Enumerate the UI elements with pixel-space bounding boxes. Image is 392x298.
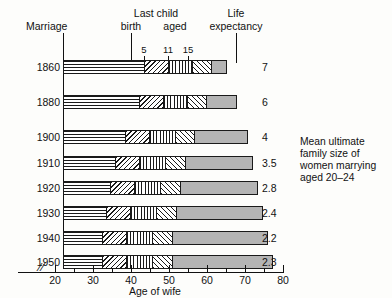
x-tick-label-30: 30 (83, 275, 103, 287)
year-label-1900: 1900 (22, 132, 60, 144)
x-axis-label: Age of wife (110, 286, 200, 298)
caption-line-2: family size of (300, 148, 360, 160)
x-tick-60 (207, 265, 208, 272)
header-last-child-birth: birth (111, 20, 151, 32)
caption-line-1: Mean ultimate (300, 136, 365, 148)
family-size-1920: 2.8 (262, 183, 292, 195)
segment-child-0-5 (107, 207, 131, 219)
segment-marriage-to-last-birth (64, 61, 145, 73)
segment-life-expectancy (173, 232, 267, 244)
leader-line-last-child-birth (131, 33, 132, 63)
segment-child-11-15 (176, 131, 195, 143)
leader-line-life-expectancy (236, 33, 237, 63)
segment-life-expectancy (212, 61, 226, 73)
segment-marriage-to-last-birth (64, 131, 126, 143)
x-tick-label-80: 80 (273, 275, 293, 287)
year-label-1860: 1860 (22, 62, 60, 74)
age-tick-5-label: 5 (137, 44, 151, 56)
header-last-child-aged: aged (155, 20, 195, 32)
year-label-1940: 1940 (22, 233, 60, 245)
segment-life-expectancy (186, 157, 252, 169)
family-size-1910: 3.5 (262, 158, 292, 170)
x-tick-65 (226, 268, 227, 272)
segment-marriage-to-last-birth (64, 182, 111, 194)
bar-1880 (63, 95, 237, 109)
year-label-1880: 1880 (22, 97, 60, 109)
bar-1900 (63, 130, 248, 144)
caption-line-4: aged 20–24 (300, 172, 354, 184)
segment-child-0-5 (103, 256, 127, 268)
year-label-1930: 1930 (22, 208, 60, 220)
family-size-1930: 2.4 (262, 208, 292, 220)
segment-marriage-to-last-birth (64, 157, 116, 169)
bar-1930 (63, 206, 263, 220)
year-label-1910: 1910 (22, 158, 60, 170)
segment-child-0-5 (111, 182, 135, 194)
age-tick-15-label: 15 (180, 44, 196, 56)
year-label-1920: 1920 (22, 183, 60, 195)
segment-child-5-11 (135, 182, 161, 194)
x-tick-label-70: 70 (235, 275, 255, 287)
segment-life-expectancy (181, 182, 257, 194)
x-tick-25 (74, 268, 75, 272)
segment-child-11-15 (153, 256, 173, 268)
segment-child-11-15 (166, 157, 186, 169)
header-last-child: Last child (120, 7, 192, 19)
segment-child-11-15 (193, 61, 212, 73)
x-tick-45 (150, 268, 151, 272)
segment-child-0-5 (103, 232, 127, 244)
segment-life-expectancy (173, 256, 272, 268)
x-tick-20 (55, 265, 56, 272)
header-life-expectancy: expectancy (190, 20, 282, 32)
age-tick-11-label: 11 (160, 44, 176, 56)
x-tick-75 (264, 268, 265, 272)
family-size-1950: 2.3 (262, 257, 292, 269)
x-tick-70 (245, 265, 246, 272)
segment-child-5-11 (127, 232, 153, 244)
x-tick-label-20: 20 (45, 275, 65, 287)
chart-root: Marriage Last child birth aged Life expe… (0, 0, 392, 298)
bar-1940 (63, 231, 268, 245)
segment-marriage-to-last-birth (64, 96, 140, 108)
header-marriage: Marriage (26, 20, 96, 32)
bar-1860 (63, 60, 227, 74)
segment-child-11-15 (161, 182, 181, 194)
segment-child-0-5 (126, 131, 150, 143)
x-tick-label-60: 60 (197, 275, 217, 287)
caption-line-3: women marrying (300, 160, 376, 172)
segment-child-5-11 (164, 96, 188, 108)
segment-child-11-15 (153, 232, 173, 244)
x-axis-line (18, 272, 284, 273)
segment-life-expectancy (177, 207, 262, 219)
segment-marriage-to-last-birth (64, 207, 107, 219)
family-size-1940: 2.2 (262, 233, 292, 245)
x-tick-30 (93, 265, 94, 272)
bar-1910 (63, 156, 253, 170)
family-size-1900: 4 (262, 132, 292, 144)
segment-life-expectancy (207, 96, 236, 108)
x-tick-55 (188, 268, 189, 272)
bar-1920 (63, 181, 258, 195)
segment-marriage-to-last-birth (64, 256, 103, 268)
segment-child-5-11 (169, 61, 193, 73)
family-size-1880: 6 (262, 97, 292, 109)
x-tick-40 (131, 265, 132, 272)
segment-child-5-11 (140, 157, 166, 169)
header-life: Life (196, 7, 276, 19)
segment-child-0-5 (116, 157, 140, 169)
segment-life-expectancy (195, 131, 247, 143)
segment-child-0-5 (140, 96, 164, 108)
segment-marriage-to-last-birth (64, 232, 103, 244)
x-tick-35 (112, 268, 113, 272)
x-tick-80 (283, 265, 284, 272)
segment-child-0-5 (145, 61, 169, 73)
x-tick-50 (169, 265, 170, 272)
bar-1950 (63, 255, 273, 269)
segment-child-11-15 (188, 96, 207, 108)
segment-child-11-15 (157, 207, 177, 219)
segment-child-5-11 (131, 207, 157, 219)
segment-child-5-11 (150, 131, 176, 143)
family-size-1860: 7 (262, 62, 292, 74)
